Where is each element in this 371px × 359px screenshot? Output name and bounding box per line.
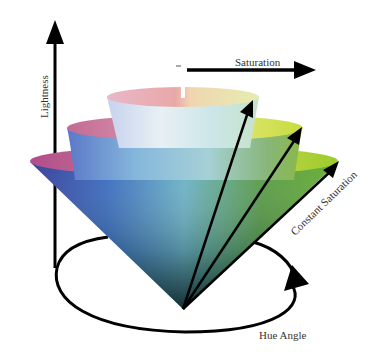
lightness-label: Lightness (38, 75, 50, 118)
hue-arrowhead-icon (284, 265, 309, 291)
hue-angle-label: Hue Angle (259, 329, 306, 341)
lightness-axis (46, 20, 64, 268)
small-cone (107, 86, 259, 148)
saturation-label: Saturation (235, 56, 281, 68)
saturation-arrowhead-icon (294, 61, 316, 79)
hsl-cone-diagram: Lightness Saturation Constant Saturation… (0, 0, 371, 359)
lightness-arrowhead-icon (46, 20, 64, 44)
